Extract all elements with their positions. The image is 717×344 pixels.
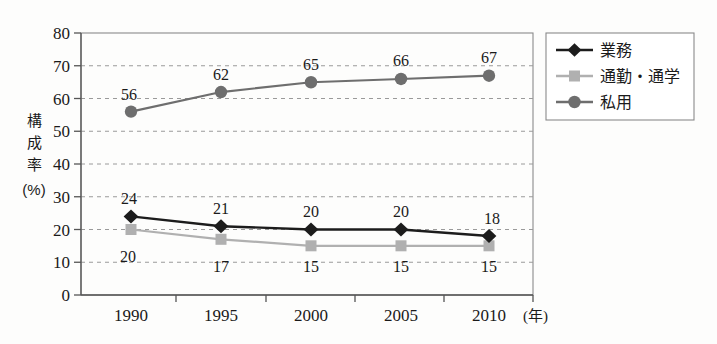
y-axis-title-char-2: 成	[27, 134, 42, 151]
value-label-gyomu-2005: 20	[393, 203, 409, 220]
y-tick-80: 80	[53, 24, 70, 43]
legend-label-shiyou: 私用	[600, 94, 632, 111]
value-label-tsukin-2005: 15	[393, 258, 409, 275]
value-label-shiyou-2000: 65	[303, 56, 319, 73]
y-axis-unit-label: (%)	[22, 181, 45, 198]
value-label-tsukin-1990: 20	[120, 248, 136, 265]
value-label-shiyou-2005: 66	[393, 52, 409, 69]
y-tick-40: 40	[53, 155, 70, 174]
x-tick-2000: 2000	[294, 306, 328, 325]
y-tick-10: 10	[53, 253, 70, 272]
gridlines	[81, 66, 533, 263]
x-tick-1990: 1990	[114, 306, 148, 325]
y-tick-30: 30	[53, 188, 70, 207]
data-point-shiyou-1990	[125, 105, 137, 117]
y-tick-20: 20	[53, 221, 70, 240]
legend-label-tsukin-tsugaku: 通勤・通学	[600, 68, 680, 85]
value-label-tsukin-2000: 15	[303, 258, 319, 275]
chart-legend: 業務 通勤・通学 私用	[546, 33, 694, 120]
x-tick-2005: 2005	[384, 306, 418, 325]
x-tick-2010: 2010	[472, 306, 506, 325]
data-point-shiyou-2005	[395, 73, 407, 85]
data-point-tsukin-1990	[126, 224, 137, 235]
y-axis-title-char-3: 率	[27, 156, 42, 173]
data-point-gyomu-1990	[124, 209, 139, 223]
value-label-shiyou-2010: 67	[481, 49, 497, 66]
x-axis	[81, 295, 533, 302]
value-label-gyomu-2000: 20	[303, 203, 319, 220]
y-tick-60: 60	[53, 90, 70, 109]
data-point-shiyou-1995	[215, 86, 227, 98]
data-point-gyomu-1995	[214, 219, 229, 233]
data-point-gyomu-2005	[394, 223, 409, 237]
y-tick-0: 0	[62, 286, 71, 305]
circle-marker-icon	[568, 96, 580, 108]
value-label-tsukin-1995: 17	[213, 258, 229, 275]
chart-container: 80 70 60 50 40 30 20 10 0 構 成 率 (%) 1990…	[0, 0, 717, 344]
y-axis-title-char-1: 構	[27, 112, 42, 129]
data-point-shiyou-2010	[483, 70, 495, 82]
value-label-tsukin-2010: 15	[481, 258, 497, 275]
y-tick-50: 50	[53, 122, 70, 141]
data-point-tsukin-2000	[306, 240, 317, 251]
data-point-tsukin-2005	[396, 240, 407, 251]
x-axis-unit-label: (年)	[523, 308, 548, 325]
series-shiyou: 56 62 65 66 67	[121, 49, 497, 118]
value-label-gyomu-2010: 18	[484, 210, 500, 227]
data-point-shiyou-2000	[305, 76, 317, 88]
value-label-gyomu-1995: 21	[213, 200, 229, 217]
value-label-gyomu-1990: 24	[121, 190, 137, 207]
y-axis	[74, 33, 81, 295]
value-label-shiyou-1990: 56	[121, 86, 137, 103]
line-chart: 80 70 60 50 40 30 20 10 0 構 成 率 (%) 1990…	[0, 0, 717, 344]
legend-label-gyomu: 業務	[600, 42, 632, 59]
value-label-shiyou-1995: 62	[213, 66, 229, 83]
y-tick-70: 70	[53, 57, 70, 76]
data-point-tsukin-1995	[216, 234, 227, 245]
square-marker-icon	[569, 71, 580, 82]
data-point-gyomu-2000	[304, 223, 319, 237]
x-tick-1995: 1995	[204, 306, 238, 325]
